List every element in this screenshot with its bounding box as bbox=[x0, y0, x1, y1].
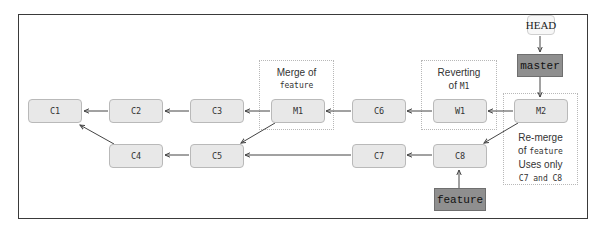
remerge-annotation-prefix: of bbox=[518, 145, 529, 156]
remerge-annotation-c8: C8 bbox=[553, 174, 563, 183]
master-label: master bbox=[520, 60, 560, 72]
commit-label: C3 bbox=[212, 106, 222, 116]
revert-annotation: Reverting of M1 bbox=[421, 66, 497, 93]
commit-label: C8 bbox=[455, 151, 465, 161]
commit-c7[interactable]: C7 bbox=[352, 144, 406, 168]
commit-label: C2 bbox=[131, 106, 141, 116]
revert-annotation-code: M1 bbox=[460, 82, 470, 91]
feature-branch[interactable]: feature bbox=[434, 188, 486, 211]
commit-c4[interactable]: C4 bbox=[109, 144, 163, 168]
revert-annotation-line1: Reverting bbox=[421, 66, 497, 79]
remerge-annotation-c7: C7 bbox=[519, 174, 529, 183]
commit-label: C4 bbox=[131, 151, 141, 161]
merge-annotation-line1: Merge of bbox=[259, 66, 334, 79]
head-label: HEAD bbox=[526, 19, 557, 31]
remerge-annotation-line3: Uses only bbox=[503, 158, 578, 171]
commit-c8[interactable]: C8 bbox=[433, 144, 487, 168]
commit-c6[interactable]: C6 bbox=[352, 99, 406, 123]
merge-annotation-line2: feature bbox=[259, 79, 334, 92]
head-ref[interactable]: HEAD bbox=[527, 15, 555, 35]
commit-w1[interactable]: W1 bbox=[433, 99, 487, 123]
commit-c2[interactable]: C2 bbox=[109, 99, 163, 123]
commit-label: C1 bbox=[50, 106, 60, 116]
commit-label: C7 bbox=[374, 151, 384, 161]
commit-label: M2 bbox=[536, 106, 546, 116]
commit-label: W1 bbox=[455, 106, 465, 116]
commit-label: C5 bbox=[212, 151, 222, 161]
commit-c1[interactable]: C1 bbox=[28, 99, 82, 123]
remerge-annotation-and: and bbox=[528, 174, 552, 183]
master-branch[interactable]: master bbox=[517, 54, 563, 77]
commit-m2[interactable]: M2 bbox=[514, 99, 568, 123]
commit-c5[interactable]: C5 bbox=[190, 144, 244, 168]
commit-m1[interactable]: M1 bbox=[271, 99, 325, 123]
commit-c3[interactable]: C3 bbox=[190, 99, 244, 123]
feature-label: feature bbox=[437, 194, 483, 206]
remerge-annotation-line1: Re-merge bbox=[503, 131, 578, 144]
commit-label: C6 bbox=[374, 106, 384, 116]
remerge-annotation-code: feature bbox=[529, 147, 563, 156]
commit-label: M1 bbox=[293, 106, 303, 116]
merge-annotation: Merge of feature bbox=[259, 66, 334, 92]
remerge-annotation: Re-merge of feature Uses only C7 and C8 bbox=[503, 131, 578, 185]
revert-annotation-prefix: of bbox=[449, 80, 460, 91]
